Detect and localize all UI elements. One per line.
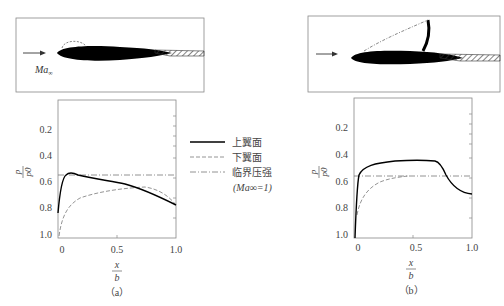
svg-text:上翼面: 上翼面 [232,137,262,148]
svg-text:0.2: 0.2 [40,124,53,135]
legend: 上翼面 下翼面 临界压强 (Ma∞=1) [190,137,273,194]
svg-text:1.0: 1.0 [40,229,53,240]
svg-text:p0: p0 [23,167,33,178]
svg-text:0: 0 [356,242,361,253]
svg-text:b: b [409,270,414,281]
svg-text:0: 0 [60,244,65,255]
svg-text:0.2: 0.2 [336,122,349,133]
svg-text:0.5: 0.5 [111,244,124,255]
plot-b-x-label: x b [406,257,416,281]
svg-text:1.0: 1.0 [336,229,349,240]
svg-text:下翼面: 下翼面 [232,152,262,163]
plot-b [354,98,472,238]
svg-text:0.6: 0.6 [40,176,53,187]
svg-text:1.0: 1.0 [170,244,183,255]
svg-text:x: x [114,259,120,270]
upper-surface-curve-b [355,160,472,238]
plot-a-x-ticks: 0 0.5 1.0 [60,244,183,255]
plot-a [58,100,176,238]
svg-text:0.4: 0.4 [40,150,53,161]
upper-surface-curve-a [58,173,176,213]
caption-a: （a） [105,287,129,298]
svg-text:x: x [408,257,414,268]
svg-text:0.8: 0.8 [336,202,349,213]
plot-a-x-label: x b [112,259,122,283]
svg-text:1.0: 1.0 [466,242,479,253]
caption-b: （b） [399,285,424,296]
svg-text:b: b [115,272,120,283]
svg-text:临界压强: 临界压强 [232,166,272,178]
plot-a-y-ticks: 0.2 0.4 0.6 0.8 1.0 [40,124,53,240]
svg-text:p: p [308,169,318,175]
svg-text:p0: p0 [319,167,329,178]
svg-text:p: p [12,169,22,175]
lower-surface-curve-b [357,176,408,215]
figure-canvas: Ma∞ 0.2 0.4 0.6 0.8 1.0 0 [0,0,504,306]
airfoil-diagram-b [308,16,500,92]
svg-text:(Ma∞=1): (Ma∞=1) [233,182,273,194]
plot-b-x-ticks: 0 0.5 1.0 [356,242,479,253]
lower-surface-curve-a [59,187,176,236]
plot-b-y-label: p p0 [308,166,329,178]
svg-text:0.8: 0.8 [40,202,53,213]
svg-text:0.4: 0.4 [336,149,349,160]
airfoil-diagram-a [16,18,204,92]
plot-b-y-ticks: 0.2 0.4 0.6 0.8 1.0 [336,122,349,240]
plot-a-y-label: p p0 [12,166,33,178]
svg-text:0.5: 0.5 [410,242,423,253]
svg-text:0.6: 0.6 [336,176,349,187]
